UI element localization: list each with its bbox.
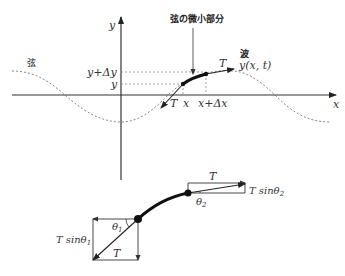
x-plus-dx-label: x+Δx [198, 97, 228, 110]
left-angle-arc [126, 219, 129, 227]
wave-label: 波 [240, 48, 250, 59]
y-axis-label: y [108, 19, 116, 32]
right-vertical-label: T sinθ2 [249, 185, 285, 198]
tension-left-label: T [170, 97, 179, 110]
right-tension-arrow [188, 184, 245, 193]
x-position-label: x [183, 97, 190, 110]
lower-diagram: θ1 T T sinθ1 T θ2 T sinθ2 [56, 170, 285, 260]
wave-function-label: y(x, t) [238, 59, 271, 72]
right-angle-label: θ2 [196, 196, 207, 209]
left-endpoint [134, 215, 142, 223]
left-angle-label: θ1 [112, 221, 123, 234]
y-label: y [110, 78, 118, 91]
wave-string-diagram: y x 弦 y+Δy y T T x x+Δx 波 y(x, t) 弦の微小部分 [0, 0, 345, 276]
right-endpoint [185, 190, 192, 197]
string-segment [183, 74, 206, 84]
left-horizontal-label: T [113, 247, 122, 260]
segment-annotation: 弦の微小部分 [170, 13, 224, 24]
left-vertical-label: T sinθ1 [56, 234, 91, 247]
upper-diagram: y x 弦 y+Δy y T T x x+Δx 波 y(x, t) 弦の微小部分 [12, 13, 340, 180]
tension-right-label: T [219, 57, 228, 70]
x-axis-label: x [333, 98, 340, 111]
right-horizontal-label: T [209, 170, 218, 183]
string-label: 弦 [27, 57, 36, 68]
segment-curve [138, 193, 188, 219]
